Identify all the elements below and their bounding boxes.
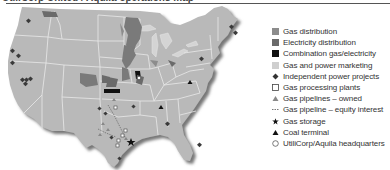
gas-distribution-swatch-icon (272, 28, 279, 35)
legend-label: Coal terminal (283, 128, 329, 137)
legend-processing: Gas processing plants (272, 82, 390, 93)
square-outline-icon (272, 84, 279, 91)
processing-marker (116, 144, 119, 147)
legend-label: Gas pipelines – owned (283, 94, 362, 103)
legend-marketing: Gas and power marketing (272, 60, 390, 71)
legend-label: Gas and power marketing (283, 61, 372, 70)
legend-label: Gas distribution (283, 27, 337, 36)
legend-label: Independent power projects (283, 72, 379, 81)
legend-pipelines-owned: Gas pipelines – owned (272, 93, 390, 104)
combination-swatch-icon (272, 50, 279, 57)
legend-hq: UtiliCorp/Aquila headquarters (272, 138, 390, 149)
dashed-line-icon (272, 106, 279, 113)
legend-label: Combination gas/electricity (283, 49, 376, 58)
processing-marker (114, 106, 117, 109)
legend-coal: Coal terminal (272, 127, 390, 138)
map-legend: Gas distribution Electricity distributio… (272, 26, 390, 149)
legend-electricity-distribution: Electricity distribution (272, 37, 390, 48)
ipp-marker (233, 30, 238, 35)
legend-pipeline-equity: Gas pipeline – equity interest (272, 104, 390, 115)
headquarters-marker (137, 76, 141, 80)
processing-marker (121, 134, 124, 137)
black-triangle-icon (272, 129, 279, 136)
marketing-swatch-icon (272, 62, 279, 69)
ipp-marker (197, 142, 202, 147)
gray-triangle-icon (272, 95, 279, 102)
legend-ipp: Independent power projects (272, 71, 390, 82)
legend-gas-distribution: Gas distribution (272, 26, 390, 37)
territory-kansas-combo (104, 89, 120, 93)
circle-outline-icon (272, 140, 279, 147)
legend-storage: Gas storage (272, 116, 390, 127)
processing-marker (124, 129, 127, 132)
electricity-distribution-swatch-icon (272, 39, 279, 46)
title-divider (6, 3, 390, 4)
legend-label: UtiliCorp/Aquila headquarters (283, 139, 385, 148)
us-operations-map (0, 5, 275, 170)
legend-combination: Combination gas/electricity (272, 48, 390, 59)
legend-label: Gas pipeline – equity interest (283, 105, 383, 114)
diamond-icon (272, 73, 279, 80)
star-icon (272, 118, 279, 125)
processing-marker (117, 139, 120, 142)
legend-label: Gas processing plants (283, 83, 360, 92)
legend-label: Electricity distribution (283, 38, 356, 47)
legend-label: Gas storage (283, 117, 325, 126)
